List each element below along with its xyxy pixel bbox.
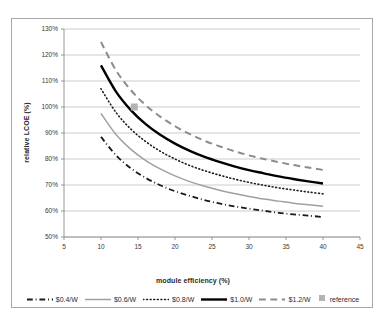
x-tick-label: 5 bbox=[49, 243, 79, 250]
legend-line-swatch bbox=[259, 295, 285, 304]
chart-screenshot: 50%60%70%80%90%100%110%120%130%510152025… bbox=[0, 0, 386, 324]
y-tick-label: 50% bbox=[12, 233, 58, 240]
legend-line-swatch bbox=[143, 295, 169, 304]
legend-label: $0.8/W bbox=[172, 296, 194, 303]
y-tick-label: 80% bbox=[12, 155, 58, 162]
legend-item[interactable]: $0.4/W bbox=[27, 295, 78, 304]
legend-line-swatch bbox=[85, 295, 111, 304]
x-tick-label: 15 bbox=[123, 243, 153, 250]
x-tick-label: 40 bbox=[308, 243, 338, 250]
legend-line-swatch bbox=[27, 295, 53, 304]
legend-label: $1.2/W bbox=[288, 296, 310, 303]
series-line bbox=[101, 65, 323, 183]
plot-svg bbox=[12, 19, 374, 267]
y-tick-label: 130% bbox=[12, 25, 58, 32]
legend-label: $0.6/W bbox=[114, 296, 136, 303]
legend-label: $0.4/W bbox=[56, 296, 78, 303]
y-tick-label: 110% bbox=[12, 77, 58, 84]
legend-marker-swatch bbox=[318, 295, 327, 304]
x-tick-label: 45 bbox=[345, 243, 375, 250]
legend-item[interactable]: $1.2/W bbox=[259, 295, 310, 304]
y-tick-label: 120% bbox=[12, 51, 58, 58]
y-tick-label: 100% bbox=[12, 103, 58, 110]
x-tick-label: 20 bbox=[160, 243, 190, 250]
plot-area: 50%60%70%80%90%100%110%120%130%510152025… bbox=[12, 19, 374, 267]
y-tick-label: 60% bbox=[12, 207, 58, 214]
x-tick-label: 35 bbox=[271, 243, 301, 250]
y-tick-label: 70% bbox=[12, 181, 58, 188]
y-axis-title: relative LCOE (%) bbox=[23, 73, 30, 193]
legend-line-swatch bbox=[201, 295, 227, 304]
y-tick-label: 90% bbox=[12, 129, 58, 136]
chart-legend: $0.4/W$0.6/W$0.8/W$1.0/W$1.2/Wreference bbox=[12, 291, 374, 307]
series-line bbox=[101, 137, 323, 217]
chart-frame: 50%60%70%80%90%100%110%120%130%510152025… bbox=[11, 18, 373, 308]
x-tick-label: 30 bbox=[234, 243, 264, 250]
legend-item[interactable]: reference bbox=[318, 295, 360, 304]
x-axis-title: module efficiency (%) bbox=[12, 277, 374, 284]
reference-marker bbox=[131, 104, 138, 111]
legend-label: $1.0/W bbox=[230, 296, 252, 303]
x-tick-label: 25 bbox=[197, 243, 227, 250]
legend-item[interactable]: $0.8/W bbox=[143, 295, 194, 304]
reference-swatch-box bbox=[319, 295, 325, 301]
legend-item[interactable]: $0.6/W bbox=[85, 295, 136, 304]
x-tick-label: 10 bbox=[86, 243, 116, 250]
legend-item[interactable]: $1.0/W bbox=[201, 295, 252, 304]
legend-label: reference bbox=[330, 296, 360, 303]
